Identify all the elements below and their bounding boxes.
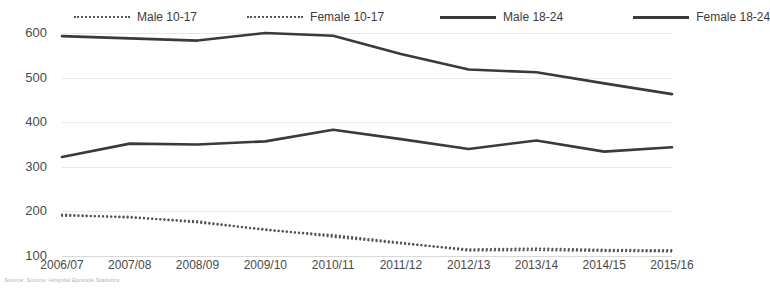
x-tick-label: 2008/09: [163, 258, 233, 272]
series-line-female-10-17: [62, 215, 672, 252]
y-axis-labels: 600500400300200100: [0, 0, 56, 293]
x-tick-label: 2011/12: [366, 258, 436, 272]
gridline-100: [62, 256, 672, 257]
legend-item-female-18-24[interactable]: Female 18-24: [633, 8, 770, 26]
y-tick-label: 400: [1, 115, 47, 129]
y-tick-label: 600: [1, 26, 47, 40]
x-tick-label: 2009/10: [230, 258, 300, 272]
y-tick-label: 500: [1, 71, 47, 85]
x-tick-label: 2013/14: [501, 258, 571, 272]
series-line-male-10-17: [62, 216, 672, 250]
x-tick-label: 2015/16: [637, 258, 707, 272]
legend-swatch-dotted-icon: [247, 16, 303, 18]
legend-label: Male 10-17: [137, 10, 197, 24]
legend-swatch-dotted-icon: [74, 16, 130, 18]
legend-label: Female 18-24: [696, 10, 770, 24]
y-tick-label: 200: [1, 204, 47, 218]
source-note: Source: Source: Hospital Episode Statist…: [4, 277, 119, 283]
chart-title: [0, 0, 709, 5]
plot-area: [62, 33, 672, 256]
legend-label: Female 10-17: [310, 10, 384, 24]
series-lines: [62, 33, 672, 256]
x-tick-label: 2007/08: [95, 258, 165, 272]
legend-item-male-10-17[interactable]: Male 10-17: [74, 8, 197, 26]
x-tick-label: 2012/13: [434, 258, 504, 272]
series-line-male-18-24: [62, 33, 672, 94]
y-tick-label: 300: [1, 160, 47, 174]
x-tick-label: 2010/11: [298, 258, 368, 272]
series-line-female-18-24: [62, 130, 672, 157]
x-tick-label: 2014/15: [569, 258, 639, 272]
chart-legend: Male 10-17 Female 10-17 Male 18-24 Femal…: [62, 8, 707, 26]
legend-item-male-18-24[interactable]: Male 18-24: [440, 8, 563, 26]
x-tick-label: 2006/07: [27, 258, 97, 272]
x-axis-labels: 2006/072007/082008/092009/102010/112011/…: [62, 258, 672, 278]
legend-label: Male 18-24: [503, 10, 563, 24]
legend-swatch-solid-icon: [633, 16, 689, 19]
legend-swatch-solid-icon: [440, 16, 496, 19]
legend-item-female-10-17[interactable]: Female 10-17: [247, 8, 384, 26]
